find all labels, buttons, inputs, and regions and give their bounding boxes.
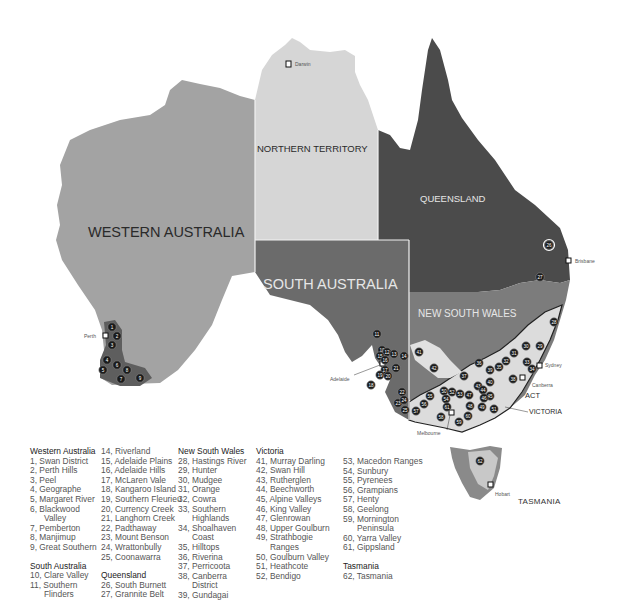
wine-region-pin-28[interactable]: 28: [550, 318, 558, 326]
state-northern-territory[interactable]: [255, 38, 378, 240]
legend-item: 39, Gundagai: [178, 591, 246, 601]
wine-region-pin-13[interactable]: 13: [390, 350, 398, 358]
wine-region-pin-35[interactable]: 35: [495, 363, 503, 371]
legend-item: 9, Great Southern: [30, 543, 97, 553]
wine-region-pin-58[interactable]: 58: [437, 413, 445, 421]
svg-text:37: 37: [461, 374, 467, 379]
wine-region-pin-36[interactable]: 36: [475, 359, 483, 367]
svg-text:14: 14: [401, 354, 407, 359]
wine-region-pin-27[interactable]: 27: [536, 273, 544, 281]
svg-text:12: 12: [384, 350, 390, 355]
wine-region-pin-60[interactable]: 60: [464, 412, 472, 420]
wine-region-pin-4[interactable]: 4: [103, 356, 111, 364]
svg-text:7: 7: [120, 377, 123, 382]
label-tasmania: TASMANIA: [518, 497, 561, 506]
wine-region-pin-2[interactable]: 2: [113, 332, 121, 340]
wine-region-pin-11[interactable]: 11: [373, 330, 381, 338]
svg-text:8: 8: [126, 368, 129, 373]
city-adelaide: Adelaide: [330, 361, 385, 382]
wine-region-pin-41[interactable]: 41: [415, 348, 423, 356]
wine-region-pin-37[interactable]: 37: [460, 372, 468, 380]
wine-region-pin-42[interactable]: 42: [430, 364, 438, 372]
svg-text:27: 27: [537, 275, 543, 280]
svg-text:28: 28: [551, 320, 557, 325]
legend-col-3: New South Wales 28, Hastings River 29, H…: [178, 447, 246, 601]
svg-text:19: 19: [377, 373, 383, 378]
wine-region-pin-55[interactable]: 55: [426, 392, 434, 400]
legend-item: Flinders: [30, 590, 97, 600]
label-northern-territory: NORTHERN TERRITORY: [257, 143, 368, 154]
wine-region-pin-49[interactable]: 49: [478, 403, 486, 411]
wine-region-pin-1[interactable]: 1: [108, 323, 116, 331]
wine-region-pin-39[interactable]: 39: [486, 366, 494, 374]
wine-region-pin-31[interactable]: 31: [510, 349, 518, 357]
svg-text:26: 26: [546, 243, 552, 248]
wine-region-pin-19[interactable]: 19: [376, 371, 384, 379]
wine-region-pin-26[interactable]: 26: [545, 241, 553, 249]
legend-item: 61, Gippsland: [343, 543, 423, 553]
label-new-south-wales: NEW SOUTH WALES: [418, 308, 517, 319]
wine-region-pin-61[interactable]: 61: [443, 403, 451, 411]
wine-region-pin-33[interactable]: 33: [523, 358, 531, 366]
legend-col-1: Western Australia 1, Swan District 2, Pe…: [30, 447, 97, 600]
wine-region-pin-29[interactable]: 29: [536, 342, 544, 350]
wine-region-pin-47[interactable]: 47: [465, 391, 473, 399]
wine-region-pin-56[interactable]: 56: [420, 400, 428, 408]
svg-text:25: 25: [402, 408, 408, 413]
wine-region-pin-5[interactable]: 5: [99, 366, 107, 374]
wine-region-pin-20[interactable]: 20: [384, 372, 392, 380]
label-western-australia: WESTERN AUSTRALIA: [88, 224, 245, 240]
wine-region-pin-22[interactable]: 22: [398, 388, 406, 396]
wine-region-pin-24[interactable]: 24: [400, 396, 408, 404]
wine-region-pin-38[interactable]: 38: [509, 375, 517, 383]
svg-text:Perth: Perth: [84, 333, 96, 339]
wine-region-pin-52[interactable]: 52: [448, 388, 456, 396]
label-act: ACT: [525, 391, 540, 400]
wine-region-pin-54[interactable]: 54: [442, 395, 450, 403]
wine-region-pin-25[interactable]: 25: [401, 406, 409, 414]
state-south-australia[interactable]: [255, 240, 409, 420]
svg-text:Canberra: Canberra: [532, 382, 553, 388]
label-south-australia: SOUTH AUSTRALIA: [263, 276, 398, 292]
wine-region-pin-3[interactable]: 3: [108, 341, 116, 349]
wine-region-pin-6[interactable]: 6: [113, 361, 121, 369]
svg-text:42: 42: [431, 366, 437, 371]
legend-item: 27, Grannite Belt: [101, 590, 182, 600]
svg-text:58: 58: [438, 415, 444, 420]
svg-text:62: 62: [477, 459, 483, 464]
wine-region-pin-7[interactable]: 7: [117, 375, 125, 383]
legend-item: 25, Coonawarra: [101, 553, 182, 563]
svg-text:5: 5: [102, 368, 105, 373]
svg-text:40: 40: [487, 380, 493, 385]
wine-region-pin-40[interactable]: 40: [486, 378, 494, 386]
wine-region-pin-46[interactable]: 46: [480, 394, 488, 402]
svg-text:29: 29: [537, 344, 543, 349]
wine-region-pin-8[interactable]: 8: [123, 366, 131, 374]
wine-region-pin-21[interactable]: 21: [392, 364, 400, 372]
legend-item: 52, Bendigo: [256, 572, 330, 582]
svg-text:54: 54: [443, 397, 449, 402]
wine-region-pin-44[interactable]: 44: [479, 386, 487, 394]
wine-region-pin-9[interactable]: 9: [136, 374, 144, 382]
label-queensland: QUEENSLAND: [420, 193, 486, 204]
svg-text:16: 16: [382, 358, 388, 363]
wine-region-pin-16[interactable]: 16: [381, 356, 389, 364]
wine-region-pin-62[interactable]: 62: [476, 457, 484, 465]
svg-text:55: 55: [427, 394, 433, 399]
wine-region-pin-18[interactable]: 18: [367, 381, 375, 389]
wine-region-pin-59[interactable]: 59: [455, 418, 463, 426]
wine-region-pin-30[interactable]: 30: [522, 342, 530, 350]
wine-region-pin-53[interactable]: 53: [456, 390, 464, 398]
wine-region-pin-50[interactable]: 50: [440, 387, 448, 395]
city-darwin: Darwin: [286, 61, 311, 67]
legend-col-5: 53, Macedon Ranges 54, Sunbury 55, Pyren…: [343, 457, 423, 581]
svg-text:21: 21: [393, 366, 399, 371]
wine-region-pin-48[interactable]: 48: [466, 402, 474, 410]
wine-region-pin-32[interactable]: 32: [502, 357, 510, 365]
svg-text:11: 11: [375, 332, 380, 337]
wine-region-pin-51[interactable]: 51: [490, 405, 498, 413]
wine-region-pin-34[interactable]: 34: [528, 365, 536, 373]
wine-region-pin-57[interactable]: 57: [412, 407, 420, 415]
legend-col-2: 14, Riverland 15, Adelaide Plains 16, Ad…: [101, 447, 182, 600]
wine-region-pin-14[interactable]: 14: [400, 352, 408, 360]
